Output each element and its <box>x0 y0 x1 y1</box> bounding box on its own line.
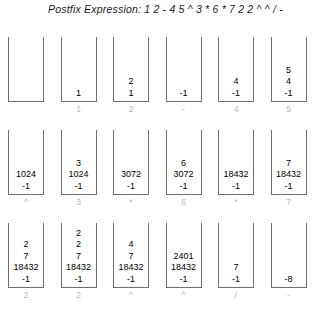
stack-step: -8- <box>263 212 316 305</box>
stack-step: 7-1/ <box>210 212 263 305</box>
stack-container <box>8 130 44 195</box>
stack-step: 3072-1* <box>105 119 158 212</box>
stack-token-label: 5 <box>271 104 307 114</box>
stack-row: 1024-1^31024-133072-1*63072-1618432-1*71… <box>0 119 331 212</box>
stack-container <box>218 223 254 288</box>
stack-token-label: / <box>218 290 254 300</box>
stack-token-label: ^ <box>113 290 149 300</box>
stack-container <box>218 130 254 195</box>
stack-step: 4718432-1^ <box>105 212 158 305</box>
stack-container <box>271 223 307 288</box>
stack-token-label: 6 <box>166 197 202 207</box>
stack-step: 4-14 <box>210 26 263 119</box>
stack-step: 31024-13 <box>53 119 106 212</box>
stack-container <box>113 37 149 102</box>
stack-token-label: - <box>271 290 307 300</box>
stack-token-label: * <box>218 197 254 207</box>
stack-step: 11 <box>53 26 106 119</box>
stack-container <box>271 37 307 102</box>
stack-container <box>166 37 202 102</box>
stack-step: -1- <box>158 26 211 119</box>
stack-token-label: 3 <box>61 197 97 207</box>
stack-container <box>61 223 97 288</box>
stack-token-label: 2 <box>8 290 44 300</box>
stack-container <box>61 130 97 195</box>
stack-container <box>8 37 44 102</box>
stack-container <box>8 223 44 288</box>
stack-container <box>271 130 307 195</box>
stack-step: 22718432-12 <box>53 212 106 305</box>
stack-step: 2718432-12 <box>0 212 53 305</box>
stack-step: 212 <box>105 26 158 119</box>
stack-container <box>113 223 149 288</box>
page-title: Postfix Expression: 1 2 - 4 5 ^ 3 * 6 * … <box>0 3 331 15</box>
stack-container <box>166 223 202 288</box>
stack-token-label: 4 <box>218 104 254 114</box>
stack-row: 2718432-1222718432-124718432-1^240118432… <box>0 212 331 305</box>
stack-step: 718432-17 <box>263 119 316 212</box>
stack-step: 240118432-1^ <box>158 212 211 305</box>
stack-token-label: 7 <box>271 197 307 207</box>
stack-token-label: ^ <box>8 197 44 207</box>
stack-step: 63072-16 <box>158 119 211 212</box>
stack-token-label: - <box>166 104 202 114</box>
stack-token-label: ^ <box>166 290 202 300</box>
stack-step: 1024-1^ <box>0 119 53 212</box>
stack-token-label: 2 <box>61 290 97 300</box>
stack-step <box>0 26 53 119</box>
stack-step: 18432-1* <box>210 119 263 212</box>
stack-trace-grid: 11212-1-4-1454-151024-1^31024-133072-1*6… <box>0 26 331 305</box>
stack-row: 11212-1-4-1454-15 <box>0 26 331 119</box>
stack-step: 54-15 <box>263 26 316 119</box>
stack-token-label: 2 <box>113 104 149 114</box>
stack-container <box>166 130 202 195</box>
stack-container <box>113 130 149 195</box>
stack-token-label: 1 <box>61 104 97 114</box>
stack-container <box>61 37 97 102</box>
stack-container <box>218 37 254 102</box>
stack-token-label: * <box>113 197 149 207</box>
